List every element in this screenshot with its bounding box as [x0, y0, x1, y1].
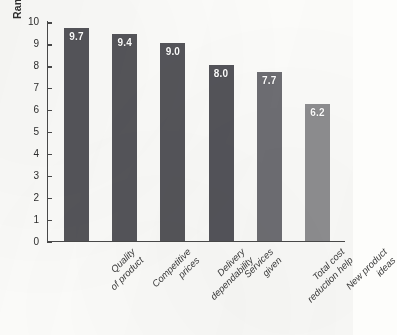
- tick-label: 10: [19, 17, 39, 27]
- bar-value-label: 9.0: [160, 46, 185, 57]
- bar-value-label: 7.7: [257, 75, 282, 86]
- tick-mark: [47, 198, 52, 199]
- tick-label: 3: [19, 171, 39, 181]
- tick-mark: [47, 154, 52, 155]
- plot-area: 109876543210 9.79.49.08.07.76.2: [47, 21, 345, 242]
- tick-label: 0: [19, 237, 39, 247]
- bar-value-label: 6.2: [305, 107, 330, 118]
- bar: 9.0: [160, 43, 185, 241]
- bar: 6.2: [305, 104, 330, 240]
- category-label: New productideas: [343, 246, 397, 300]
- x-axis-line: [47, 241, 345, 242]
- bar: 9.7: [64, 28, 89, 241]
- bar-value-label: 9.7: [64, 31, 89, 42]
- category-label: Competitiveprices: [149, 246, 201, 298]
- tick-mark: [47, 242, 52, 243]
- tick-label: 1: [19, 215, 39, 225]
- bar: 7.7: [257, 72, 282, 241]
- tick-mark: [47, 176, 52, 177]
- tick-label: 6: [19, 105, 39, 115]
- bar-value-label: 9.4: [112, 37, 137, 48]
- tick-mark: [47, 22, 52, 23]
- tick-label: 4: [19, 149, 39, 159]
- tick-mark: [47, 110, 52, 111]
- tick-label: 8: [19, 61, 39, 71]
- tick-label: 9: [19, 39, 39, 49]
- tick-mark: [47, 66, 52, 67]
- tick-label: 5: [19, 127, 39, 137]
- tick-mark: [47, 220, 52, 221]
- category-label: Servicesgiven: [242, 246, 284, 288]
- bar-value-label: 8.0: [209, 68, 234, 79]
- tick-mark: [47, 44, 52, 45]
- tick-mark: [47, 132, 52, 133]
- bar: 8.0: [209, 65, 234, 241]
- bar: 9.4: [112, 34, 137, 240]
- category-label: Qualityof product: [99, 246, 145, 292]
- tick-label: 2: [19, 193, 39, 203]
- tick-mark: [47, 88, 52, 89]
- category-label: Total costreduction help: [297, 246, 355, 304]
- tick-label: 7: [19, 83, 39, 93]
